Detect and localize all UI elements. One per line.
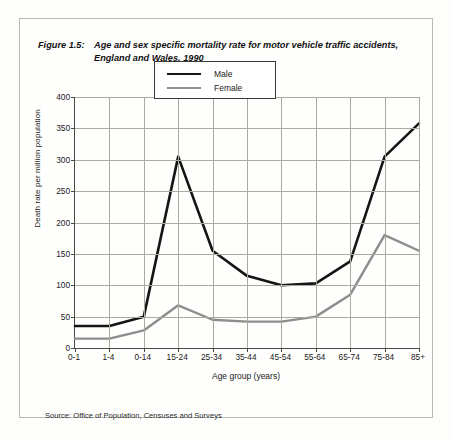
x-axis-ticks: 0-11-40-1415-2425-3435-4445-5455-6465-74… — [74, 352, 418, 366]
y-tick-mark — [71, 191, 75, 192]
x-tick-label: 15-24 — [167, 352, 188, 362]
x-tick-label: 55-64 — [304, 352, 325, 362]
y-tick-mark — [71, 128, 75, 129]
gridline-vertical — [144, 97, 145, 348]
legend-label-male: Male — [214, 69, 232, 79]
source-note: Source: Office of Population, Censuses a… — [45, 411, 222, 420]
gridline-vertical — [419, 97, 420, 348]
y-tick-label: 0 — [34, 343, 70, 353]
y-tick-mark — [71, 160, 75, 161]
x-tick-label: 75-84 — [373, 352, 394, 362]
y-tick-label: 100 — [34, 280, 70, 290]
y-tick-mark — [71, 317, 75, 318]
y-axis-ticks: 050100150200250300350400 — [34, 97, 70, 348]
gridline-vertical — [316, 97, 317, 348]
x-tick-label: 0-1 — [68, 352, 80, 362]
x-tick-label: 25-34 — [201, 352, 222, 362]
y-tick-mark — [71, 97, 75, 98]
gridline-vertical — [281, 97, 282, 348]
plot-area — [74, 97, 419, 349]
gridline-vertical — [350, 97, 351, 348]
legend-swatch-male-icon — [167, 73, 201, 75]
y-tick-mark — [71, 285, 75, 286]
x-tick-label: 1-4 — [102, 352, 114, 362]
y-tick-mark — [71, 254, 75, 255]
chart: Death rate per million population 050100… — [20, 19, 434, 419]
chart-legend: Male Female — [154, 61, 276, 99]
y-tick-label: 400 — [34, 92, 70, 102]
x-tick-label: 0-14 — [134, 352, 151, 362]
gridline-vertical — [213, 97, 214, 348]
gridline-vertical — [385, 97, 386, 348]
y-tick-label: 150 — [34, 249, 70, 259]
x-tick-label: 45-54 — [270, 352, 291, 362]
y-tick-label: 350 — [34, 123, 70, 133]
gridline-vertical — [109, 97, 110, 348]
legend-label-female: Female — [214, 83, 242, 93]
legend-swatch-female-icon — [167, 87, 201, 89]
gridline-vertical — [247, 97, 248, 348]
x-tick-label: 85+ — [411, 352, 425, 362]
y-tick-mark — [71, 223, 75, 224]
x-tick-label: 35-44 — [235, 352, 256, 362]
legend-item-female: Female — [155, 81, 275, 95]
figure-frame: Figure 1.5: Age and sex specific mortali… — [19, 18, 433, 418]
y-tick-label: 200 — [34, 218, 70, 228]
legend-item-male: Male — [155, 67, 275, 81]
x-axis-label: Age group (years) — [74, 371, 418, 381]
y-tick-label: 250 — [34, 186, 70, 196]
y-tick-label: 50 — [34, 312, 70, 322]
x-tick-label: 65-74 — [339, 352, 360, 362]
y-tick-label: 300 — [34, 155, 70, 165]
gridline-vertical — [178, 97, 179, 348]
